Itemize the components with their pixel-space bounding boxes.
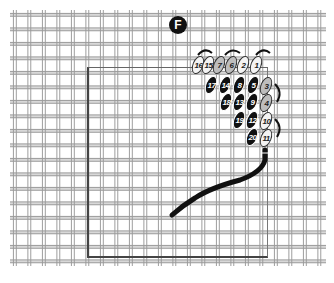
stitch-diagram: F 1615762117148531813941912102011 — [0, 0, 334, 283]
arc-icon — [275, 119, 280, 137]
stitch-number: 15 — [204, 61, 212, 70]
stitch-number: 4 — [264, 98, 268, 107]
arc-icon — [225, 50, 240, 55]
stitch-number: 12 — [248, 116, 256, 125]
stitch-number: 1 — [254, 60, 258, 69]
stitch-number: 6 — [229, 60, 233, 69]
stitch-number: 18 — [222, 98, 230, 107]
stitch-number: 10 — [262, 117, 270, 126]
stitch-number: 11 — [262, 134, 269, 143]
stitch-number: 5 — [251, 80, 255, 89]
stitch-number: 13 — [235, 98, 243, 107]
stitch-number: 20 — [248, 133, 256, 142]
arc-icon — [256, 50, 270, 55]
stitch-number: 19 — [235, 116, 243, 125]
diagram-label-badge: F — [169, 16, 187, 34]
stitch-number: 17 — [207, 81, 215, 90]
stitch-number: 7 — [217, 60, 221, 69]
stitch-number: 8 — [237, 80, 241, 89]
thread-icon — [172, 150, 265, 215]
stitch-number: 2 — [241, 60, 245, 69]
arc-icon — [198, 50, 212, 55]
stitch-number: 14 — [221, 81, 229, 90]
stitch-number: 9 — [250, 97, 254, 106]
thread-and-arcs — [0, 0, 334, 283]
stitch-number: 3 — [264, 81, 268, 90]
arc-icon — [275, 84, 280, 102]
